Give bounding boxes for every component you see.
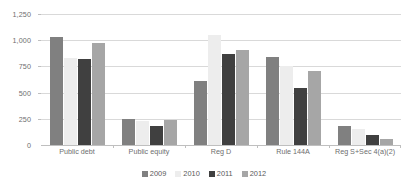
bar-2011-public-debt bbox=[78, 59, 91, 145]
legend-item-2010[interactable]: 2010 bbox=[175, 170, 199, 178]
bar-group bbox=[257, 14, 329, 145]
bar-2011-reg-s-sec-4-a-2 bbox=[366, 135, 379, 145]
legend-label: 2009 bbox=[150, 170, 166, 178]
x-axis-label: Rule 144A bbox=[257, 148, 329, 156]
bar-2011-public-equity bbox=[150, 126, 163, 145]
plot-area: 1,250 1,000 750 500 250 0 bbox=[41, 14, 401, 145]
bar-2009-reg-s-sec-4-a-2 bbox=[338, 126, 351, 145]
bar-group bbox=[185, 14, 257, 145]
legend-item-2012[interactable]: 2012 bbox=[242, 170, 266, 178]
legend-swatch-icon bbox=[242, 171, 248, 177]
bar-2012-public-equity bbox=[164, 120, 177, 145]
bar-2010-reg-d bbox=[208, 35, 221, 145]
bar-group bbox=[113, 14, 185, 145]
chart-legend: 2009201020112012 bbox=[0, 170, 408, 178]
gridline-0-baseline bbox=[41, 145, 401, 146]
ytick-label-500: 500 bbox=[0, 90, 31, 97]
ytick-label-750: 750 bbox=[0, 63, 31, 70]
x-axis-label: Public debt bbox=[41, 148, 113, 156]
x-axis-labels: Public debtPublic equityReg DRule 144ARe… bbox=[41, 148, 401, 156]
bar-2010-public-equity bbox=[136, 121, 149, 145]
bar-2011-reg-d bbox=[222, 54, 235, 145]
bar-2009-public-equity bbox=[122, 119, 135, 145]
bar-2010-reg-s-sec-4-a-2 bbox=[352, 129, 365, 145]
ytick-label-250: 250 bbox=[0, 116, 31, 123]
bar-chart: 1,250 1,000 750 500 250 0 Public debtPub… bbox=[0, 0, 408, 193]
bar-2012-reg-d bbox=[236, 50, 249, 145]
x-axis-label: Reg D bbox=[185, 148, 257, 156]
bar-2010-rule-144a bbox=[280, 66, 293, 145]
x-axis-label: Reg S+Sec 4(a)(2) bbox=[329, 148, 401, 156]
legend-item-2009[interactable]: 2009 bbox=[142, 170, 166, 178]
bar-group bbox=[41, 14, 113, 145]
bar-2009-public-debt bbox=[50, 37, 63, 145]
bar-2009-rule-144a bbox=[266, 57, 279, 145]
ytick-label-1250: 1,250 bbox=[0, 11, 31, 18]
bar-2011-rule-144a bbox=[294, 88, 307, 145]
legend-swatch-icon bbox=[175, 171, 181, 177]
bar-2012-public-debt bbox=[92, 43, 105, 145]
legend-label: 2011 bbox=[217, 170, 233, 178]
bar-group bbox=[329, 14, 401, 145]
legend-item-2011[interactable]: 2011 bbox=[209, 170, 233, 178]
bar-2009-reg-d bbox=[194, 81, 207, 145]
legend-swatch-icon bbox=[209, 171, 215, 177]
x-axis-label: Public equity bbox=[113, 148, 185, 156]
legend-label: 2012 bbox=[250, 170, 266, 178]
legend-label: 2010 bbox=[183, 170, 199, 178]
legend-swatch-icon bbox=[142, 171, 148, 177]
ytick-label-0: 0 bbox=[0, 142, 31, 149]
ytick-label-1000: 1,000 bbox=[0, 37, 31, 44]
bar-2012-reg-s-sec-4-a-2 bbox=[380, 139, 393, 145]
bar-2012-rule-144a bbox=[308, 71, 321, 145]
bar-2010-public-debt bbox=[64, 58, 77, 146]
bar-groups bbox=[41, 14, 401, 145]
